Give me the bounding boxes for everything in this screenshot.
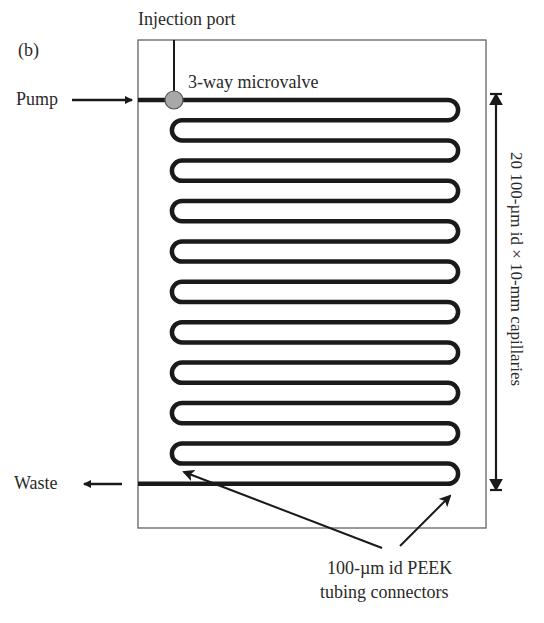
capillary-coil: [138, 100, 458, 484]
microvalve-icon: [165, 91, 183, 109]
connector-arrow-right: [400, 496, 450, 546]
dimension-arrow: [490, 94, 502, 490]
injection-port-label: Injection port: [138, 9, 235, 30]
capillaries-label: 20 100-µm id × 10-mm capillaries: [506, 152, 526, 386]
pump-label: Pump: [16, 89, 58, 110]
microreactor-diagram: [0, 0, 544, 623]
connectors-label-line1: 100-µm id PEEK: [327, 558, 452, 579]
valve-label: 3-way microvalve: [188, 72, 318, 93]
connectors-label-line2: tubing connectors: [320, 582, 448, 603]
waste-label: Waste: [14, 473, 58, 494]
panel-label: (b): [18, 40, 39, 61]
